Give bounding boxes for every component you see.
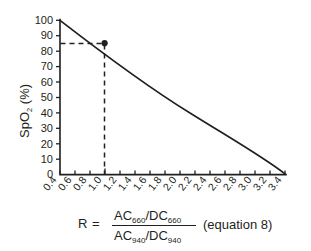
- chart-canvas: SpO2 (%) 100 90 80 70 60 50 40 30 20 10 …: [0, 0, 311, 251]
- y-tick-label: 20: [41, 138, 53, 150]
- y-tick-label: 50: [41, 91, 53, 103]
- y-tick-label: 40: [41, 107, 53, 119]
- y-tick-label: 100: [35, 14, 53, 26]
- y-tick-label: 30: [41, 122, 53, 134]
- y-axis-title-main: SpO: [17, 112, 32, 138]
- spo2-calibration-figure: SpO2 (%) 100 90 80 70 60 50 40 30 20 10 …: [0, 0, 311, 251]
- equation-numerator: AC660/DC660: [114, 208, 182, 225]
- equation-lhs: R: [78, 216, 87, 231]
- y-tick-label: 90: [41, 29, 53, 41]
- x-tick-label: 3.4: [265, 174, 284, 193]
- y-axis-title-units: (%): [17, 84, 32, 104]
- equation-number-note: (equation 8): [203, 217, 272, 232]
- y-tick-label: 80: [41, 45, 53, 57]
- equation-denominator: AC940/DC940: [114, 228, 182, 245]
- equation-equals: =: [92, 216, 100, 231]
- spo2-curve: [60, 20, 285, 174]
- y-tick-label: 60: [41, 76, 53, 88]
- svg-text:SpO2 (%): SpO2 (%): [17, 84, 34, 138]
- y-tick-label: 70: [41, 60, 53, 72]
- equation-caption: R = AC660/DC660 AC940/DC940 (equation 8): [78, 208, 272, 245]
- operating-point-marker: [102, 40, 108, 46]
- x-tick-labels: 0.4 0.6 0.8 1.0 1.2 1.4 1.6 1.8 2.0 2.2 …: [40, 174, 284, 193]
- y-axis-title: SpO2 (%): [17, 84, 34, 138]
- y-tick-labels: 100 90 80 70 60 50 40 30 20 10 0: [35, 14, 53, 180]
- y-tick-label: 10: [41, 153, 53, 165]
- operating-point-guides: [61, 43, 105, 174]
